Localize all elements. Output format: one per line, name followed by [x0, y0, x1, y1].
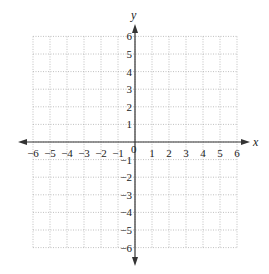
axes: x y 0 — [18, 8, 259, 266]
y-tick-label: 3 — [127, 83, 133, 95]
x-tick-label: −2 — [95, 147, 107, 159]
x-axis-right-arrow-icon — [241, 139, 250, 145]
y-tick-label: 2 — [127, 101, 133, 113]
x-tick-label: 6 — [234, 147, 240, 159]
coordinate-plane: x y 0 −6−5−4−3−2−1123456 654321−1−2−3−4−… — [0, 0, 269, 274]
y-tick-label: −4 — [120, 206, 132, 218]
y-tick-label: 5 — [127, 48, 133, 60]
y-axis-down-arrow-icon — [132, 257, 138, 266]
x-tick-label: 3 — [183, 147, 189, 159]
y-tick-label: 4 — [127, 66, 133, 78]
x-tick-label: −4 — [61, 147, 73, 159]
x-tick-label: 2 — [166, 147, 172, 159]
x-axis-left-arrow-icon — [18, 139, 27, 145]
y-tick-label: −6 — [120, 242, 132, 254]
x-axis-label: x — [252, 135, 259, 149]
x-tick-label: 4 — [200, 147, 206, 159]
y-tick-label: −2 — [120, 171, 132, 183]
y-tick-label: −3 — [120, 189, 132, 201]
y-tick-label: 6 — [127, 30, 133, 42]
x-tick-label: −5 — [44, 147, 56, 159]
y-axis-label: y — [130, 8, 137, 22]
y-tick-label: −5 — [120, 224, 132, 236]
x-tick-label: 5 — [217, 147, 223, 159]
y-tick-label: −1 — [120, 154, 132, 166]
x-tick-label: −3 — [78, 147, 90, 159]
x-tick-label: 1 — [149, 147, 155, 159]
x-tick-label: −6 — [27, 147, 39, 159]
y-axis-up-arrow-icon — [132, 24, 138, 33]
y-tick-label: 1 — [127, 118, 133, 130]
